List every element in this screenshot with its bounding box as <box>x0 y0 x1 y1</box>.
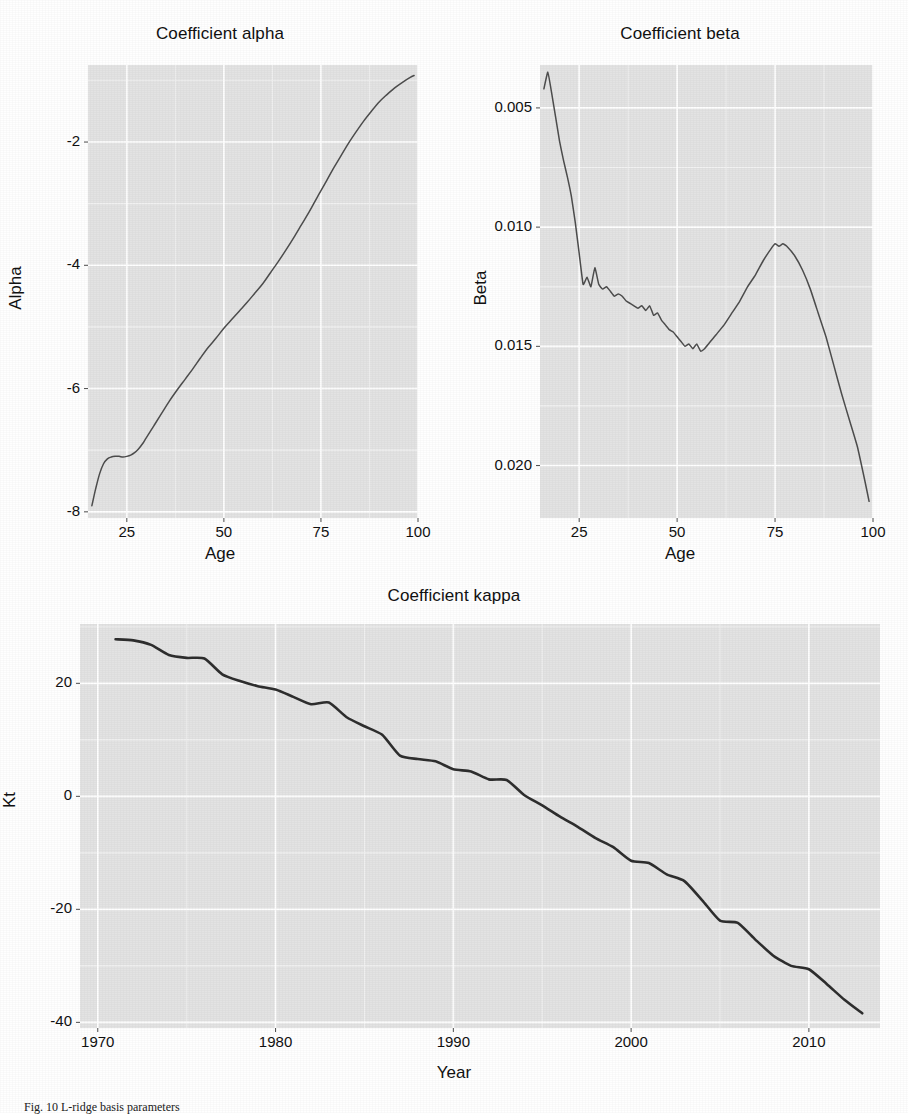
kappa-xtick-label: 1990 <box>437 1033 470 1050</box>
beta-xtick-label: 25 <box>571 523 588 540</box>
panel-beta-plot: 2550751000.0200.0150.0100.005 <box>452 40 908 560</box>
beta-ytick-label: 0.015 <box>494 336 532 353</box>
kappa-xtick-label: 2010 <box>792 1033 825 1050</box>
panel-beta: Coefficient beta Beta Age 2550751000.020… <box>452 10 908 580</box>
panel-alpha-plot: 255075100-2-4-6-8 <box>0 40 440 560</box>
alpha-ytick-label: -6 <box>67 379 80 396</box>
beta-ytick-label: 0.020 <box>494 456 532 473</box>
beta-xtick-label: 50 <box>669 523 686 540</box>
alpha-ytick-label: -8 <box>67 502 80 519</box>
alpha-ytick-label: -4 <box>67 255 80 272</box>
beta-plot-background <box>540 65 873 518</box>
alpha-ytick-label: -2 <box>67 132 80 149</box>
panel-alpha: Coefficient alpha Alpha Age 255075100-2-… <box>0 10 440 580</box>
kappa-ytick-label: -40 <box>50 1012 72 1029</box>
kappa-xtick-label: 1970 <box>81 1033 114 1050</box>
beta-ytick-label: 0.010 <box>494 217 532 234</box>
beta-xtick-label: 75 <box>767 523 784 540</box>
panel-kappa: Coefficient kappa Kt Year 19701980199020… <box>0 580 908 1100</box>
kappa-xtick-label: 2000 <box>614 1033 647 1050</box>
kappa-plot-background <box>80 624 880 1028</box>
panel-kappa-title: Coefficient kappa <box>0 586 908 606</box>
beta-ytick-label: 0.005 <box>494 98 532 115</box>
kappa-xtick-label: 1980 <box>259 1033 292 1050</box>
alpha-xtick-label: 25 <box>118 523 135 540</box>
alpha-xtick-label: 75 <box>313 523 330 540</box>
beta-xtick-label: 100 <box>860 523 885 540</box>
alpha-xtick-label: 50 <box>216 523 233 540</box>
kappa-ytick-label: -20 <box>50 899 72 916</box>
figure-caption: Fig. 10 L-ridge basis parameters <box>24 1100 180 1115</box>
kappa-ytick-label: 20 <box>55 673 72 690</box>
alpha-xtick-label: 100 <box>405 523 430 540</box>
kappa-ytick-label: 0 <box>64 786 72 803</box>
panel-kappa-plot: 19701980199020002010200-20-40 <box>0 606 908 1076</box>
